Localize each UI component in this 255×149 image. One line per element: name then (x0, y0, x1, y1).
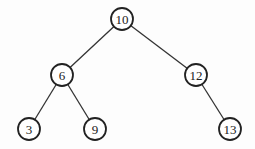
node-13: 13 (219, 118, 241, 140)
node-label: 10 (116, 12, 129, 27)
tree-svg: 10 6 12 3 9 13 (0, 0, 255, 149)
node-label: 3 (26, 122, 33, 137)
node-10: 10 (111, 8, 133, 30)
node-label: 13 (224, 122, 237, 137)
node-label: 6 (59, 68, 66, 83)
edge-10-12 (122, 19, 196, 75)
edge-10-6 (62, 19, 122, 75)
node-3: 3 (18, 118, 40, 140)
node-6: 6 (51, 64, 73, 86)
node-label: 12 (190, 68, 203, 83)
node-12: 12 (185, 64, 207, 86)
node-label: 9 (92, 122, 99, 137)
tree-diagram: 10 6 12 3 9 13 (0, 0, 255, 149)
node-9: 9 (84, 118, 106, 140)
